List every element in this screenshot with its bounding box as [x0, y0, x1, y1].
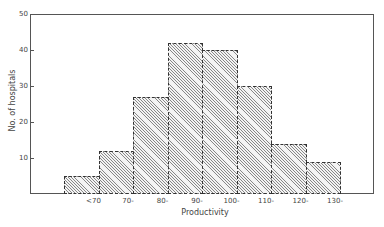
bar [168, 43, 204, 194]
y-tick [30, 158, 34, 159]
x-tick-label: <70 [76, 197, 111, 205]
bar [306, 162, 342, 194]
x-axis-title: Productivity [170, 208, 240, 217]
x-tick-label: 130- [318, 197, 353, 205]
y-tick-label: 10 [19, 154, 28, 162]
y-axis-title: No. of hospitals [8, 61, 17, 141]
x-tick-label: 90- [180, 197, 215, 205]
x-tick-label: 70- [111, 197, 146, 205]
y-tick [30, 86, 34, 87]
y-tick [30, 50, 34, 51]
y-tick-label: 20 [19, 118, 28, 126]
y-tick [30, 122, 34, 123]
y-tick-label: 50 [19, 10, 28, 18]
x-tick-label: 120- [283, 197, 318, 205]
y-tick-label: 30 [19, 82, 28, 90]
bar [99, 151, 135, 194]
x-tick-label: 110- [249, 197, 284, 205]
bar [202, 50, 238, 194]
y-tick [30, 14, 34, 15]
x-tick-label: 100- [214, 197, 249, 205]
bar [64, 176, 100, 194]
x-tick-label: 80- [145, 197, 180, 205]
bar [237, 86, 273, 194]
bar [271, 144, 307, 194]
y-tick-label: 40 [19, 46, 28, 54]
bar [133, 97, 169, 194]
